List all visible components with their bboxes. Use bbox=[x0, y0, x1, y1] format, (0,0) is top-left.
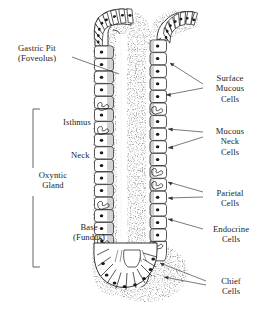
label-endocrine-cells-line1: Endocrine bbox=[213, 224, 249, 234]
label-surface-mucous-cells-line2: Mucous bbox=[205, 83, 255, 93]
label-gastric-pit: Gastric Pit (Foveolus) bbox=[18, 43, 56, 64]
label-surface-mucous-cells-line1: Surface bbox=[217, 73, 244, 83]
label-oxyntic-gland-line1: Oxyntic bbox=[39, 170, 67, 180]
label-gastric-pit-line2: (Foveolus) bbox=[18, 53, 56, 63]
label-mucous-neck-cells-line1: Mucous bbox=[216, 126, 244, 136]
label-chief-cells-line2: Cells bbox=[209, 286, 253, 296]
label-surface-mucous-cells-line3: Cells bbox=[205, 94, 255, 104]
label-chief-cells: Chief Cells bbox=[209, 276, 253, 297]
label-parietal-cells-line1: Parietal bbox=[216, 188, 243, 198]
label-mucous-neck-cells: Mucous Neck Cells bbox=[205, 126, 255, 157]
label-chief-cells-line1: Chief bbox=[221, 276, 241, 286]
label-isthmus-line1: Isthmus bbox=[63, 117, 91, 127]
label-endocrine-cells: Endocrine Cells bbox=[205, 224, 257, 245]
right-column-cells bbox=[150, 40, 167, 261]
label-mucous-neck-cells-line2: Neck bbox=[205, 136, 255, 146]
label-endocrine-cells-line2: Cells bbox=[205, 234, 257, 244]
label-base-fundus: Base (Fundus) bbox=[66, 222, 112, 243]
label-neck: Neck bbox=[71, 150, 90, 160]
label-oxyntic-gland-line2: Gland bbox=[30, 180, 76, 190]
label-base-fundus-line1: Base bbox=[80, 222, 97, 232]
label-base-fundus-line2: (Fundus) bbox=[66, 232, 112, 242]
label-parietal-cells-line2: Cells bbox=[205, 198, 255, 208]
label-parietal-cells: Parietal Cells bbox=[205, 188, 255, 209]
label-surface-mucous-cells: Surface Mucous Cells bbox=[205, 73, 255, 104]
label-isthmus: Isthmus bbox=[63, 117, 91, 127]
label-oxyntic-gland: Oxyntic Gland bbox=[30, 170, 76, 191]
label-neck-line1: Neck bbox=[71, 150, 90, 160]
label-mucous-neck-cells-line3: Cells bbox=[205, 147, 255, 157]
label-gastric-pit-line1: Gastric Pit bbox=[18, 43, 56, 53]
